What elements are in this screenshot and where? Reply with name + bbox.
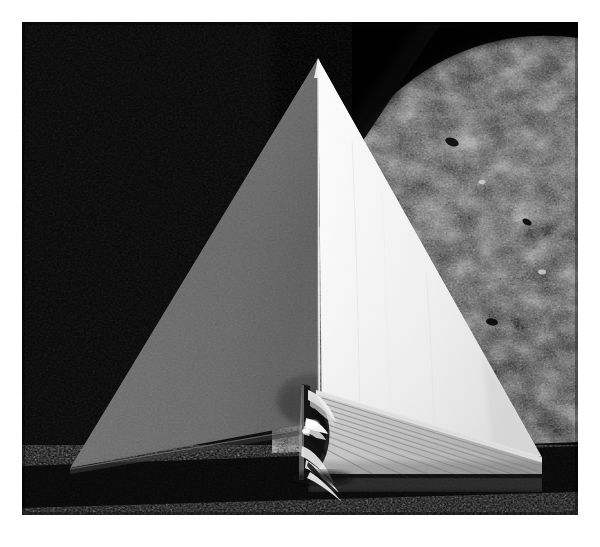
photograph [22, 22, 578, 515]
screenshot-canvas: pyramidal / tetrahedral architectural mo… [0, 0, 600, 547]
film-grain [22, 22, 578, 515]
photo-artwork [22, 22, 578, 515]
